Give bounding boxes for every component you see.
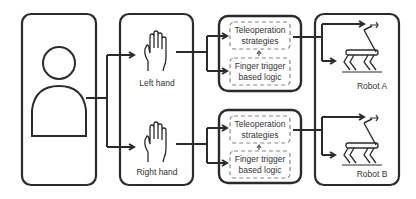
svg-text:based logic: based logic [238, 72, 282, 82]
operator-box [22, 14, 96, 185]
teleoperation-diagram: Left hand Right hand Teleoperation strat… [0, 0, 416, 199]
svg-text:strategies: strategies [242, 36, 279, 46]
control-module-a: Teleoperation strategies Finger trigger … [219, 16, 301, 91]
robot-b-label: Robot B [357, 169, 388, 179]
right-hand-label: Right hand [136, 167, 177, 177]
robot-a-icon [342, 22, 382, 72]
svg-text:Teleoperation: Teleoperation [234, 119, 285, 129]
svg-text:Teleoperation: Teleoperation [234, 25, 285, 35]
operator-connectors [86, 55, 134, 147]
svg-text:strategies: strategies [242, 130, 279, 140]
robots-box: Robot A Robot B [315, 14, 399, 185]
module-connectors [293, 24, 364, 155]
hands-box: Left hand Right hand [120, 14, 193, 185]
svg-text:Finger trigger: Finger trigger [235, 154, 286, 164]
person-head-icon [43, 47, 75, 79]
robot-b-icon [342, 115, 382, 165]
robot-a-label: Robot A [357, 81, 388, 91]
person-body-icon [32, 86, 86, 136]
left-hand-icon [145, 31, 166, 71]
control-module-b: Teleoperation strategies Finger trigger … [219, 110, 301, 183]
svg-text:Finger trigger: Finger trigger [235, 61, 286, 71]
right-hand-icon [145, 122, 166, 162]
left-hand-label: Left hand [139, 78, 175, 88]
svg-text:based logic: based logic [238, 165, 282, 175]
